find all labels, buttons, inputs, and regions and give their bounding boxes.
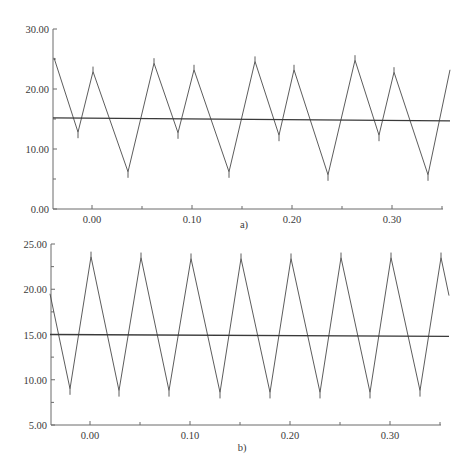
chart-panel-b: 5.0010.0015.0020.0025.000.000.100.200.30… [23,239,449,454]
chart-figure: 0.0010.0020.0030.000.000.100.200.30a) 5.… [0,0,476,473]
x-tick-label: 0.00 [81,430,99,441]
y-tick-label: 25.00 [23,239,47,250]
x-tick-label: 0.20 [283,214,301,225]
y-tick-label: 0.00 [31,204,49,215]
x-tick-label: 0.10 [181,430,199,441]
y-tick-label: 15.00 [23,330,47,341]
chart-panel-a: 0.0010.0020.0030.000.000.100.200.30a) [25,24,450,231]
x-tick-label: 0.00 [83,214,101,225]
y-tick-label: 5.00 [29,420,47,431]
waveform-line [50,257,449,393]
y-tick-label: 10.00 [25,144,49,155]
y-tick-label: 30.00 [25,24,49,35]
x-tick-label: 0.20 [281,430,299,441]
y-tick-label: 20.00 [23,284,47,295]
panel-label: a) [240,219,249,231]
x-tick-label: 0.30 [383,214,401,225]
y-tick-label: 20.00 [25,84,49,95]
waveform-line [54,58,450,175]
panel-label: b) [238,442,247,454]
y-tick-label: 10.00 [23,375,47,386]
mean-level-line [53,118,450,121]
x-tick-label: 0.10 [183,214,201,225]
mean-level-line [50,335,449,337]
x-tick-label: 0.30 [381,430,399,441]
